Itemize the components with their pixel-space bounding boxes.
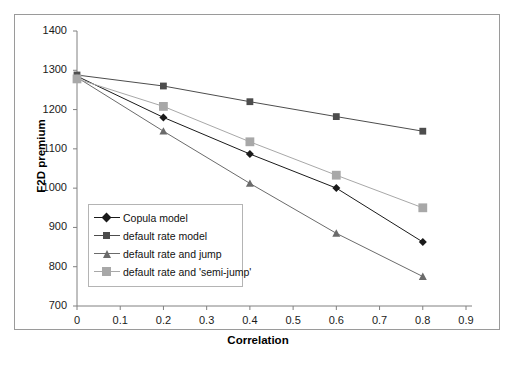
data-point-marker xyxy=(246,150,254,158)
x-axis-tick-label: 0.7 xyxy=(360,314,400,326)
legend-marker-square-light-icon xyxy=(94,265,120,279)
legend-marker-triangle-icon xyxy=(94,247,120,261)
x-axis-tick-label: 0.2 xyxy=(143,314,183,326)
y-axis-tick-label: 800 xyxy=(25,260,67,272)
data-point-marker xyxy=(246,179,254,186)
x-axis-tick-label: 0.4 xyxy=(230,314,270,326)
legend-item-default-rate-model: default rate model xyxy=(94,227,237,245)
data-point-marker xyxy=(332,171,341,180)
x-axis-title: Correlation xyxy=(0,334,516,346)
x-axis-tick-label: 0.5 xyxy=(273,314,313,326)
y-axis-tick-label: 900 xyxy=(25,220,67,232)
y-axis-tick-label: 700 xyxy=(25,299,67,311)
x-axis-tick-label: 0.6 xyxy=(316,314,356,326)
legend-label: default rate model xyxy=(123,230,207,242)
data-point-marker xyxy=(332,229,340,236)
data-point-marker xyxy=(247,98,254,105)
legend-item-copula-model: Copula model xyxy=(94,209,237,227)
y-axis-tick-label: 1400 xyxy=(25,24,67,36)
x-axis-tick-label: 0.3 xyxy=(187,314,227,326)
data-point-marker xyxy=(246,137,255,146)
data-point-marker xyxy=(159,102,168,111)
data-point-marker xyxy=(419,128,426,135)
data-point-marker xyxy=(333,113,340,120)
data-point-marker xyxy=(159,127,167,134)
x-axis-tick-label: 0 xyxy=(57,314,97,326)
x-axis-tick-label: 0.9 xyxy=(446,314,486,326)
x-axis-tick-label: 0.8 xyxy=(403,314,443,326)
legend-item-default-rate-and-jump: default rate and jump xyxy=(94,245,237,263)
data-point-marker xyxy=(73,75,82,84)
legend-label: default rate and jump xyxy=(123,248,222,260)
data-point-marker xyxy=(160,83,167,90)
data-point-marker xyxy=(419,238,427,246)
legend-label: Copula model xyxy=(123,212,188,224)
chart-figure: 70080090010001100120013001400 00.10.20.3… xyxy=(0,0,516,365)
data-point-marker xyxy=(419,273,427,280)
chart-legend: Copula model default rate model default … xyxy=(88,204,243,287)
legend-label: default rate and 'semi-jump' xyxy=(123,266,251,278)
y-axis-tick-label: 1300 xyxy=(25,63,67,75)
y-axis-title: F2D premium xyxy=(35,96,47,216)
legend-marker-square-icon xyxy=(94,229,120,243)
legend-marker-diamond-icon xyxy=(94,211,120,225)
data-point-marker xyxy=(332,184,340,192)
data-point-marker xyxy=(418,203,427,212)
legend-item-default-rate-and-semi-jump: default rate and 'semi-jump' xyxy=(94,263,237,281)
plot-canvas xyxy=(0,0,516,365)
x-axis-tick-label: 0.1 xyxy=(100,314,140,326)
data-point-marker xyxy=(159,113,167,121)
